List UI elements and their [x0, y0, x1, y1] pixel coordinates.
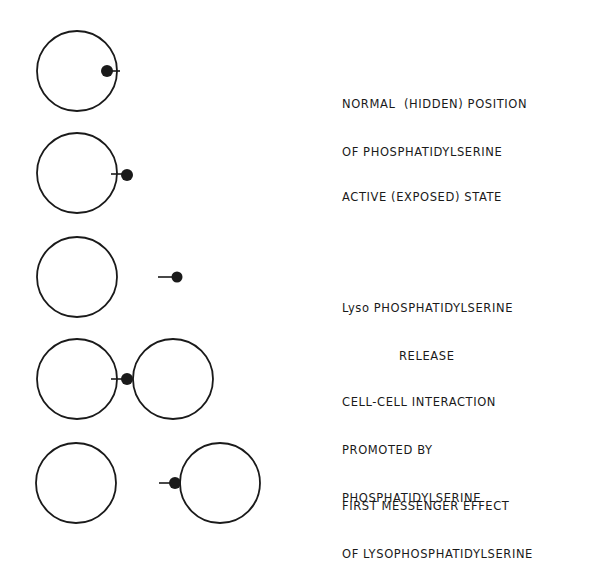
cell-circle-right [180, 443, 260, 523]
lipid-head-icon [169, 477, 181, 489]
row-cell-cell-interaction [37, 339, 213, 419]
lipid-head-icon [172, 272, 183, 283]
label-line: PROMOTED BY [342, 442, 496, 458]
lipid-head-icon [121, 373, 133, 385]
label-line: ACTIVE (EXPOSED) STATE [342, 189, 502, 205]
row-first-messenger-effect [36, 443, 260, 523]
label-line: FIRST MESSENGER EFFECT [342, 498, 533, 514]
label-active-exposed-state: ACTIVE (EXPOSED) STATE [342, 157, 502, 221]
cell-circle-left [37, 339, 117, 419]
cell-circle-left [36, 443, 116, 523]
row-normal-hidden-position [37, 31, 120, 111]
cell-circle [37, 133, 117, 213]
label-line: Lyso PHOSPHATIDYLSERINE [342, 300, 513, 316]
label-line: OF LYSOPHOSPHATIDYLSERINE [342, 546, 533, 562]
cell-circle [37, 237, 117, 317]
label-line: NORMAL (HIDDEN) POSITION [342, 96, 527, 112]
cell-circle-right [133, 339, 213, 419]
row-lyso-release [37, 237, 183, 317]
label-line: CELL-CELL INTERACTION [342, 394, 496, 410]
row-active-exposed-state [37, 133, 133, 213]
lipid-head-icon [121, 169, 133, 181]
lipid-head-icon [101, 65, 113, 77]
label-first-messenger-effect: FIRST MESSENGER EFFECT OF LYSOPHOSPHATID… [342, 466, 533, 562]
